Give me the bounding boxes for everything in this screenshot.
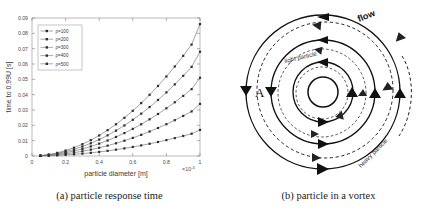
response-time-chart: 00.010.020.030.040.050.060.070.080.09 00… [0,0,219,188]
arrowhead-middle-right [369,88,381,98]
data-point [39,155,41,157]
arrowhead-outer-left [240,86,252,96]
legend-sample-marker [46,38,48,40]
data-point [90,152,92,154]
label-light-particle: light particle [284,50,318,64]
legend-sample-marker [46,30,48,32]
x-axis-title: particle diameter [m] [84,170,147,178]
data-point [48,153,50,155]
arrowhead-outer-bottom [317,163,329,175]
label-point-a: A [255,85,265,100]
data-point [191,43,193,45]
data-point [115,130,117,132]
data-point [191,110,193,112]
arrowhead-heavy-outward [393,31,406,42]
legend-label-ρ=100[interactable]: ρ=100 [56,29,69,34]
data-point [132,128,134,130]
x-tick-label: 0.4 [96,159,103,165]
y-tick-label: 0.03 [18,107,28,113]
data-point [149,94,151,96]
data-point [73,147,75,149]
data-point [165,91,167,93]
panel-particle-in-vortex: flow light particle heavy particle A [219,0,438,188]
data-point [199,23,201,25]
chart-legend[interactable]: ρ=100ρ=200ρ=300ρ=400ρ=500 [38,25,82,70]
data-point [199,51,201,53]
data-point [132,119,134,121]
data-point [165,75,167,77]
arrowhead-outer-right [394,88,406,98]
data-point [115,136,117,138]
label-heavy-particle: heavy particle [357,136,389,168]
data-point [191,88,193,90]
data-point [199,77,201,79]
data-point [90,145,92,147]
data-point [81,143,83,145]
x-tick-label: 0.8 [163,159,170,165]
data-point [90,142,92,144]
data-point [165,139,167,141]
data-point [199,103,201,105]
data-point [157,85,159,87]
legend-label-ρ=400[interactable]: ρ=400 [56,53,69,58]
data-point [81,150,83,152]
data-point [182,55,184,57]
arrowhead-middle-left [265,87,277,97]
data-point [132,137,134,139]
figure-container: 00.010.020.030.040.050.060.070.080.09 00… [0,0,438,216]
arrowhead-middle-top [317,36,328,44]
data-point [107,134,109,136]
data-point [174,65,176,67]
y-tick-label: 0.04 [18,92,28,98]
x-axis-exponent-base: ×10 [182,166,191,172]
vortex-core [308,77,338,107]
data-point [182,135,184,137]
data-point [107,139,109,141]
x-tick-label: 0.2 [62,159,69,165]
arrowhead-inner-top [317,58,328,67]
data-point [81,153,83,155]
data-point [149,143,151,145]
arrowhead-outer-top [317,13,329,21]
y-tick-label: 0.09 [18,15,28,21]
data-point [132,146,134,148]
data-point [123,124,125,126]
data-point [98,147,100,149]
data-point [149,118,151,120]
data-point [157,127,159,129]
y-tick-label: 0.02 [18,122,28,128]
data-point [182,75,184,77]
data-point [123,140,125,142]
x-tick-label: 0 [31,159,34,165]
data-point [182,115,184,117]
legend-label-ρ=300[interactable]: ρ=300 [56,45,69,50]
y-tick-label: 0.07 [18,46,28,52]
arrowhead-heavy-top [312,21,322,31]
data-point [157,113,159,115]
data-point [149,130,151,132]
data-point [157,141,159,143]
data-point [115,142,117,144]
arrowhead-middle-bottom [318,139,329,149]
data-point [123,132,125,134]
data-point [191,66,193,68]
data-point [140,144,142,146]
data-point [123,147,125,149]
data-point [140,113,142,115]
data-point [65,149,67,151]
data-point [56,152,58,154]
data-point [90,149,92,151]
arrowhead-heavy-right [382,82,394,91]
x-tick-label: 1 [199,159,202,165]
y-tick-label: 0.08 [18,30,28,36]
data-point [115,149,117,151]
data-point [174,119,176,121]
legend-label-ρ=500[interactable]: ρ=500 [56,62,69,67]
legend-label-ρ=200[interactable]: ρ=200 [56,37,69,42]
x-tick-label: 0.6 [129,159,136,165]
data-point [157,99,159,101]
legend-sample-marker [46,46,48,48]
arrowhead-inner-right [346,87,358,97]
data-point [98,138,100,140]
data-point [132,110,134,112]
